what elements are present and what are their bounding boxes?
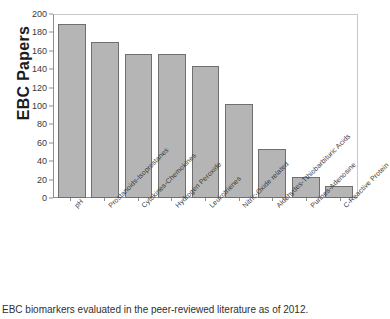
bar (58, 24, 86, 198)
y-tick-label: 200 (32, 9, 47, 19)
y-tick-label: 40 (37, 156, 47, 166)
y-tick-label: 20 (37, 175, 47, 185)
y-tick-label: 160 (32, 46, 47, 56)
y-tick-label: 180 (32, 27, 47, 37)
x-tick-label: pH (73, 198, 84, 209)
y-tick-label: 100 (32, 101, 47, 111)
bar-chart: EBC Papers 020406080100120140160180200 p… (0, 0, 368, 300)
x-axis-labels: pHProstanoids-IsoprostanesCytokines-Chem… (54, 200, 357, 296)
bar-slot (222, 14, 255, 198)
y-tick-label: 0 (42, 193, 47, 203)
y-axis-ticks: 020406080100120140160180200 (0, 14, 53, 198)
bar (91, 42, 119, 198)
y-tick-label: 120 (32, 83, 47, 93)
figure-caption: EBC biomarkers evaluated in the peer-rev… (2, 304, 366, 315)
bar-slot (55, 14, 88, 198)
y-tick-label: 80 (37, 119, 47, 129)
y-tick-label: 60 (37, 138, 47, 148)
bar-slot (88, 14, 121, 198)
y-tick-label: 140 (32, 64, 47, 74)
